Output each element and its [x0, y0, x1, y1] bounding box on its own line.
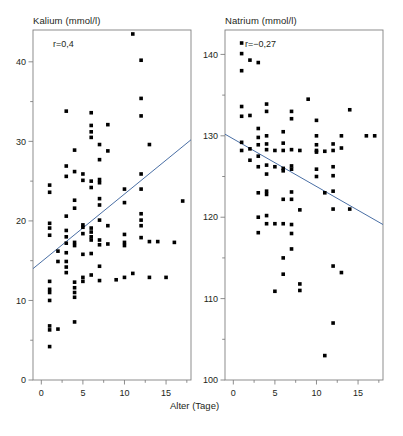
data-point: [240, 141, 244, 145]
data-point: [123, 244, 127, 248]
data-point: [89, 252, 93, 256]
data-point: [48, 299, 52, 303]
data-point: [265, 142, 269, 146]
data-point: [139, 187, 143, 191]
data-point: [256, 231, 260, 235]
data-point: [265, 148, 269, 152]
data-point: [48, 345, 52, 349]
data-point: [139, 212, 143, 216]
data-point: [265, 163, 269, 167]
data-point: [298, 282, 302, 286]
data-point: [139, 58, 143, 62]
data-point: [265, 172, 269, 176]
data-point: [139, 224, 143, 228]
data-point: [331, 207, 335, 211]
data-point: [256, 191, 260, 195]
data-point: [64, 109, 68, 113]
data-point: [281, 130, 285, 134]
data-point: [123, 276, 127, 280]
data-point: [98, 143, 102, 147]
data-point: [290, 190, 294, 194]
data-point: [114, 278, 118, 282]
data-point: [306, 97, 310, 101]
data-point: [139, 114, 143, 118]
data-point: [48, 328, 52, 332]
data-point: [281, 141, 285, 145]
data-point: [81, 253, 85, 257]
y-tick-label: 10: [16, 296, 26, 306]
data-point: [265, 134, 269, 138]
data-point: [89, 238, 93, 242]
data-point: [298, 208, 302, 212]
data-point: [331, 165, 335, 169]
data-point: [273, 289, 277, 293]
data-point: [256, 61, 260, 65]
data-point: [48, 288, 52, 292]
x-tick-label: 15: [161, 388, 171, 398]
data-point: [73, 241, 77, 245]
data-point: [331, 189, 335, 193]
data-point: [64, 251, 68, 255]
data-point: [315, 143, 319, 147]
data-point: [248, 114, 252, 118]
data-point: [290, 117, 294, 121]
x-tick-label: 5: [272, 388, 277, 398]
data-point: [340, 146, 344, 150]
regression-line: [33, 140, 191, 269]
data-point: [73, 320, 77, 324]
data-point: [73, 280, 77, 284]
data-point: [248, 58, 252, 62]
x-tick-label: 10: [119, 388, 129, 398]
data-point: [64, 175, 68, 179]
data-point: [256, 154, 260, 158]
data-point: [315, 134, 319, 138]
data-point: [48, 233, 52, 237]
data-point: [265, 214, 269, 218]
data-point: [98, 279, 102, 283]
data-point: [48, 221, 52, 225]
data-point: [240, 105, 244, 109]
panel-kalium: 010203040051015r=0,4: [16, 30, 191, 398]
data-point: [315, 167, 319, 171]
data-point: [106, 242, 110, 246]
data-point: [173, 241, 177, 245]
data-point: [265, 110, 269, 114]
data-point: [240, 149, 244, 153]
data-point: [315, 149, 319, 153]
data-point: [281, 198, 285, 202]
data-point: [123, 201, 127, 205]
figure-container: Kalium (mmol/l) Natrium (mmol/l) 0102030…: [0, 0, 403, 436]
data-point: [131, 32, 135, 36]
data-point: [64, 271, 68, 275]
data-point: [240, 52, 244, 56]
data-point: [290, 167, 294, 171]
data-point: [348, 207, 352, 211]
y-tick-label: 140: [203, 50, 218, 60]
x-tick-label: 15: [353, 388, 363, 398]
correlation-annotation: r=0,4: [53, 39, 74, 49]
data-point: [281, 169, 285, 173]
data-point: [89, 273, 93, 277]
data-point: [248, 147, 252, 151]
data-point: [273, 149, 277, 153]
data-point: [323, 149, 327, 153]
data-point: [89, 186, 93, 190]
data-point: [348, 108, 352, 112]
data-point: [290, 198, 294, 202]
data-point: [98, 243, 102, 247]
data-point: [73, 286, 77, 290]
data-point: [48, 324, 52, 328]
data-point: [73, 198, 77, 202]
data-point: [290, 110, 294, 114]
panel-title-natrium: Natrium (mmol/l): [225, 15, 297, 26]
data-point: [148, 143, 152, 147]
data-point: [48, 280, 52, 284]
y-tick-label: 40: [16, 57, 26, 67]
data-point: [298, 149, 302, 153]
data-point: [373, 134, 377, 138]
data-point: [73, 206, 77, 210]
data-point: [273, 222, 277, 226]
x-tick-label: 10: [311, 388, 321, 398]
data-point: [164, 276, 168, 280]
data-point: [290, 247, 294, 251]
